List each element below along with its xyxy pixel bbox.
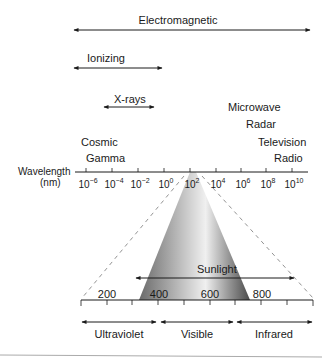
- label-ionizing: Ionizing: [87, 52, 125, 64]
- label-gamma: Gamma: [86, 152, 125, 164]
- ruler-label-200: 200: [98, 288, 116, 300]
- tick-label: 10−6: [78, 179, 97, 191]
- label-sunlight: Sunlight: [197, 263, 237, 275]
- label-cosmic: Cosmic: [81, 136, 118, 148]
- ruler-label-400: 400: [150, 288, 168, 300]
- label-microwave: Microwave: [228, 101, 281, 113]
- tick-label: 1010: [285, 179, 304, 191]
- ruler-label-600: 600: [201, 288, 219, 300]
- tick-label: 100: [158, 179, 173, 191]
- tick-label: 10−2: [130, 179, 149, 191]
- label-electromagnetic: Electromagnetic: [139, 14, 218, 26]
- visible-cone: [139, 172, 250, 300]
- label-ultraviolet: Ultraviolet: [95, 328, 144, 340]
- tick-label: 106: [235, 179, 250, 191]
- label-infrared: Infrared: [255, 328, 293, 340]
- label-visible: Visible: [181, 328, 213, 340]
- ruler-label-800: 800: [253, 288, 271, 300]
- label-television: Television: [258, 136, 306, 148]
- tick-label: 104: [210, 179, 225, 191]
- tick-label: 108: [260, 179, 275, 191]
- tick-label: 10−4: [104, 179, 123, 191]
- label-xrays: X-rays: [114, 93, 146, 105]
- label-radio: Radio: [274, 152, 303, 164]
- tick-label: 102: [184, 179, 199, 191]
- label-radar: Radar: [246, 118, 276, 130]
- axis-label-unit: (nm): [40, 177, 61, 189]
- footer-rule: [0, 355, 322, 357]
